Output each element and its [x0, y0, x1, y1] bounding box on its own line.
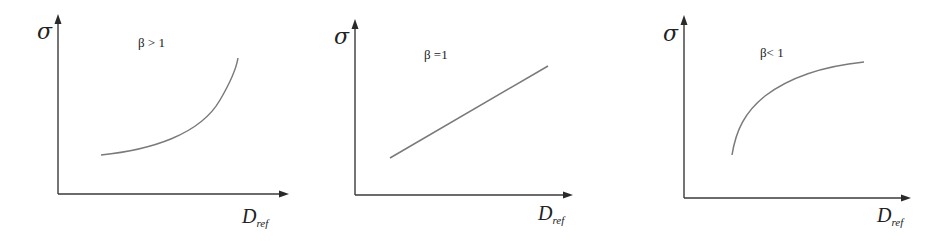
x-axis-arrow-icon: [279, 191, 289, 198]
beta-annotation: β< 1: [760, 45, 784, 60]
y-axis-label: σ: [37, 19, 53, 44]
panel-beta-less-than-1: σ β< 1 Dref: [663, 15, 911, 228]
x-axis-label: Dref: [537, 202, 566, 226]
data-curve: [732, 62, 864, 155]
beta-annotation: β =1: [424, 47, 448, 62]
y-axis-arrow-icon: [681, 15, 688, 25]
y-axis-arrow-icon: [55, 14, 62, 24]
data-curve: [101, 58, 238, 155]
beta-annotation: β > 1: [138, 35, 165, 50]
x-axis-arrow-icon: [901, 195, 911, 202]
y-axis-label: σ: [334, 24, 350, 49]
x-axis-label: Dref: [876, 204, 905, 228]
x-axis-label: Dref: [241, 205, 270, 229]
y-axis-label: σ: [663, 21, 679, 46]
panel-beta-greater-than-1: σ β > 1 Dref: [37, 14, 289, 229]
y-axis-arrow-icon: [352, 19, 359, 29]
x-axis-arrow-icon: [563, 192, 573, 199]
panel-beta-equal-1: σ β =1 Dref: [334, 19, 573, 226]
figure: σ β > 1 Dref σ β =1 Dref σ β< 1 Dref: [0, 0, 942, 241]
data-line: [390, 66, 548, 158]
